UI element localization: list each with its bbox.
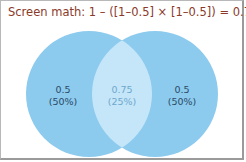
- right-label: 0.5 (50%): [152, 84, 212, 108]
- overlap-value: 0.75: [92, 84, 152, 96]
- right-percent: (50%): [152, 96, 212, 108]
- overlap-percent: (25%): [92, 96, 152, 108]
- left-value: 0.5: [33, 84, 93, 96]
- left-percent: (50%): [33, 96, 93, 108]
- overlap-label: 0.75 (25%): [92, 84, 152, 108]
- left-label: 0.5 (50%): [33, 84, 93, 108]
- venn-diagram: [0, 0, 246, 162]
- right-value: 0.5: [152, 84, 212, 96]
